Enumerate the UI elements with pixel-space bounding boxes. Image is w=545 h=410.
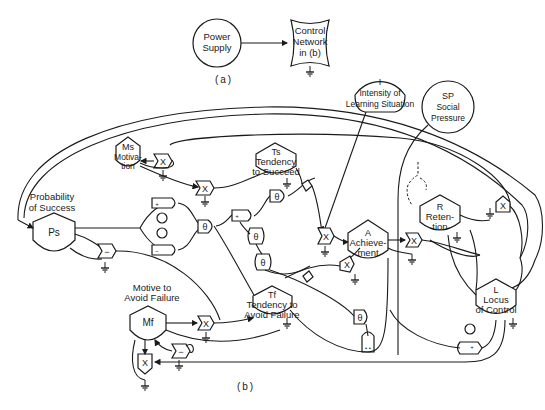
svg-text:Control: Control	[295, 25, 326, 36]
probability-of-success-node: Ps	[33, 213, 75, 251]
figure-a: Power Supply Control Network in (b) (a)	[193, 19, 329, 85]
achievement-node: A Achieve- ment	[348, 220, 388, 258]
multiply-operator-3: X	[318, 228, 334, 256]
threshold-operator-5: θ	[354, 310, 367, 324]
svg-text:X: X	[160, 157, 166, 167]
svg-text:in (b): in (b)	[299, 47, 321, 58]
svg-text:+: +	[235, 213, 239, 219]
probability-of-success-title: Probability	[30, 191, 75, 202]
svg-text:of Control: of Control	[475, 304, 516, 315]
multiply-operator-5: X	[340, 256, 359, 284]
multiply-operator-2: X	[196, 181, 214, 206]
svg-text:Social: Social	[436, 102, 459, 112]
control-network-diagram: Power Supply Control Network in (b) (a) …	[0, 0, 545, 410]
svg-text:θ: θ	[260, 258, 265, 268]
svg-text:tion: tion	[432, 221, 447, 232]
svg-text:Ps: Ps	[48, 227, 60, 238]
power-supply-node: Power Supply	[193, 19, 241, 67]
svg-text:θ: θ	[357, 313, 362, 323]
comparator-2: +	[232, 210, 251, 221]
svg-text:Supply: Supply	[202, 42, 231, 53]
svg-text:+: +	[155, 201, 159, 207]
svg-text:X: X	[323, 232, 329, 242]
intensity-node: I Intensity of Learning Situation	[346, 77, 415, 112]
svg-text:θ: θ	[253, 232, 258, 242]
svg-text:tion: tion	[121, 161, 135, 171]
svg-text:X: X	[411, 236, 417, 246]
svg-text:Learning Situation: Learning Situation	[346, 99, 415, 109]
svg-text:ment: ment	[357, 247, 378, 258]
motivation-feedback-loop	[170, 134, 510, 205]
outer-loop-2	[24, 114, 528, 258]
svg-text:Pressure: Pressure	[431, 113, 465, 123]
retention-node: R Reten- tion	[420, 195, 461, 242]
subtract-operator-mf: −	[172, 344, 190, 370]
svg-text:Mf: Mf	[142, 317, 153, 328]
motive-to-avoid-failure-node: Mf	[130, 306, 166, 340]
subtract-operator-ps: −	[98, 244, 116, 272]
svg-text:θ: θ	[274, 192, 279, 202]
svg-text:X: X	[202, 184, 208, 194]
threshold-operator-3: θ	[248, 228, 264, 244]
svg-text:Avoid Failure: Avoid Failure	[124, 292, 179, 303]
svg-text:to Succeed: to Succeed	[252, 166, 300, 177]
motivation-node: Ms Motiva- tion	[114, 137, 142, 171]
multiply-operator-4: X	[406, 233, 422, 247]
svg-text:Power: Power	[204, 31, 231, 42]
svg-text:X: X	[500, 201, 506, 211]
svg-text:SP: SP	[442, 91, 454, 101]
comparator-cluster: + −	[140, 198, 198, 255]
svg-text:X: X	[142, 358, 148, 368]
svg-text:I: I	[379, 77, 382, 87]
threshold-operator-2: θ	[270, 190, 284, 202]
svg-text:−: −	[178, 347, 183, 357]
svg-text:X: X	[344, 260, 350, 270]
svg-text:Ms: Ms	[122, 142, 134, 152]
multiply-operator-8: X	[138, 354, 152, 390]
comparator-locus: +	[458, 324, 483, 354]
svg-text:−: −	[155, 248, 159, 254]
svg-text:θ: θ	[202, 222, 207, 232]
retention-feedback-dashed	[407, 162, 418, 205]
svg-text:−: −	[104, 247, 109, 257]
diamond-junction-1	[302, 180, 312, 191]
control-network-node: Control Network in (b)	[291, 20, 329, 76]
threshold-operator-4: θ	[255, 254, 271, 270]
multiply-operator-6: X	[486, 196, 510, 218]
svg-text:Network: Network	[293, 36, 328, 47]
svg-text:of Success: of Success	[29, 202, 76, 213]
threshold-operator-1: θ	[198, 220, 212, 233]
figure-b: Ms Motiva- tion X X Probability of Succe…	[18, 77, 543, 392]
svg-text:• •: • •	[365, 345, 371, 351]
caption-b: (b)	[237, 381, 255, 392]
svg-text:+: +	[470, 344, 474, 350]
diamond-junction-2	[303, 271, 313, 282]
social-pressure-node: SP Social Pressure	[422, 81, 474, 133]
svg-text:Intensity of: Intensity of	[359, 88, 401, 98]
tendency-to-succeed-node: Ts Tendency to Succeed	[252, 143, 300, 188]
multiply-operator-7: X	[198, 316, 214, 342]
svg-text:X: X	[203, 319, 209, 329]
caption-a: (a)	[215, 74, 233, 85]
